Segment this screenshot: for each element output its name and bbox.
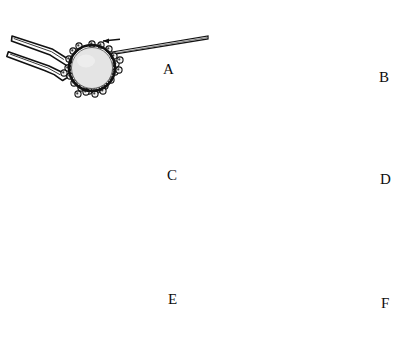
panel-label-a: A	[163, 62, 174, 77]
panel-a-ooplasm	[72, 48, 113, 89]
panel-label-b: B	[379, 70, 389, 85]
panel-label-c: C	[167, 168, 177, 183]
panel-label-f: F	[381, 296, 389, 311]
panel-label-d: D	[380, 172, 391, 187]
micromanipulation-figure	[0, 0, 409, 348]
figure-canvas	[0, 0, 409, 348]
figure-background	[0, 0, 409, 348]
panel-label-e: E	[168, 292, 177, 307]
panel-a-highlight	[77, 55, 95, 68]
